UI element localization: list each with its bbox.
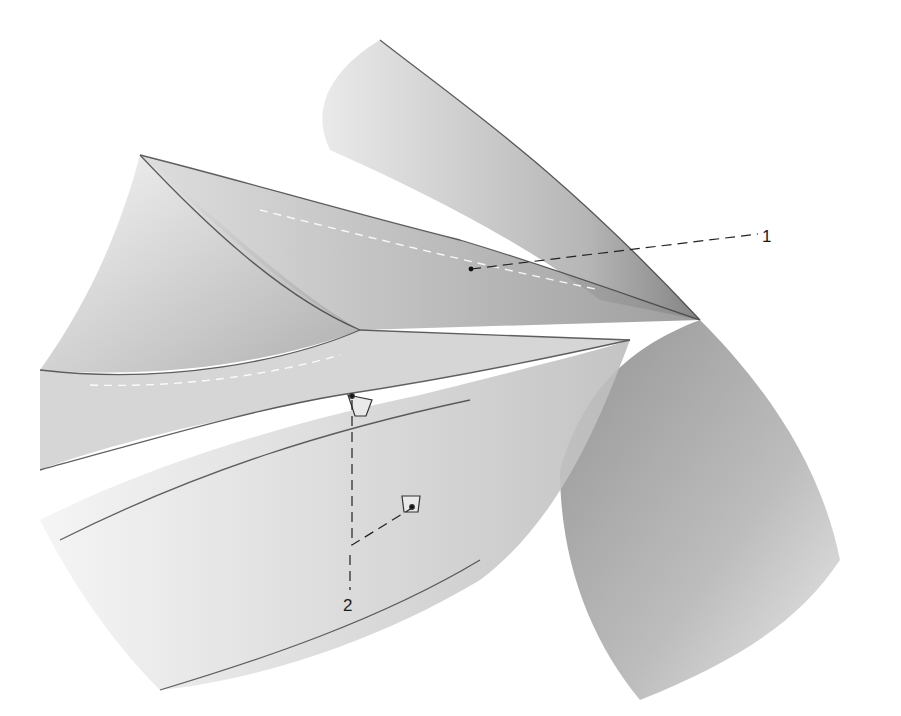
surgical-illustration	[0, 0, 901, 716]
callout-label-1: 1	[762, 228, 771, 245]
suture-lower	[402, 496, 420, 512]
anchor-dot-1	[469, 267, 474, 272]
callout-label-2: 2	[343, 597, 352, 614]
